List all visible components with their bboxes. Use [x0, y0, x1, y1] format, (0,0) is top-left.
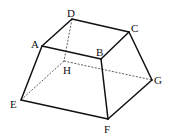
edge-fg — [108, 80, 152, 119]
edge-bf — [101, 59, 108, 119]
edge-da — [42, 19, 72, 46]
edge-cg — [129, 32, 152, 80]
vertex-label-c: C — [131, 22, 138, 34]
edge-hg — [64, 61, 152, 80]
edge-ae — [21, 46, 42, 100]
vertex-label-h: H — [63, 64, 71, 76]
vertex-label-d: D — [67, 7, 75, 19]
diagram-canvas: ABCDEFGH — [0, 0, 173, 136]
edge-he — [21, 61, 64, 100]
vertex-label-e: E — [10, 98, 17, 110]
vertex-label-a: A — [31, 38, 39, 50]
vertex-label-b: B — [96, 46, 103, 58]
frustum-diagram: ABCDEFGH — [0, 0, 173, 136]
edge-ab — [42, 46, 101, 59]
edge-bc — [101, 32, 129, 59]
edge-ef — [21, 100, 108, 119]
vertex-label-g: G — [154, 74, 162, 86]
edge-cd — [72, 19, 129, 32]
solid-edges — [21, 19, 152, 119]
vertex-label-f: F — [104, 123, 110, 135]
